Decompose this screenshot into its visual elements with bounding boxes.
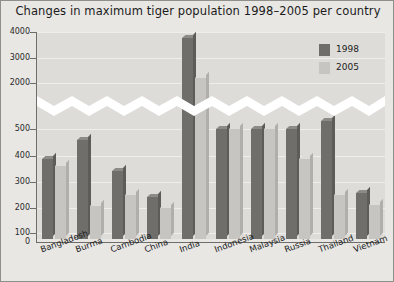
axis-break-symbol (37, 92, 385, 118)
bar-cambodia-1998 (112, 171, 123, 239)
y-tick-label-200: 200 (2, 203, 30, 212)
legend-label-2005: 2005 (336, 62, 359, 72)
gridline-4000 (37, 32, 385, 33)
bar-vietnam-2005 (369, 205, 380, 239)
y-tick-mark-500 (30, 129, 37, 130)
chart-legend: 1998 2005 (319, 42, 381, 78)
bar-cambodia-2005 (125, 195, 136, 239)
bar-burma-1998 (77, 140, 88, 239)
bar-vietnam-1998 (356, 193, 367, 239)
chart-title: Changes in maximum tiger population 1998… (1, 4, 394, 18)
bar-china-2005 (160, 208, 171, 239)
y-tick-mark-200 (30, 208, 37, 209)
y-tick-label-3000: 3000 (2, 53, 30, 62)
y-tick-300: 300 (1, 177, 30, 187)
bar-russia-2005 (299, 159, 310, 239)
legend-label-1998: 1998 (336, 44, 359, 54)
y-tick-mark-3000 (30, 58, 37, 59)
bar-malaysia-1998 (251, 129, 262, 239)
bar-india-2005 (195, 78, 206, 239)
legend-entry-1998: 1998 (319, 42, 381, 60)
bar-burma-2005 (90, 206, 101, 239)
y-tick-label-100: 100 (2, 228, 30, 237)
y-tick-label-300: 300 (2, 177, 30, 186)
y-tick-500: 500 (1, 124, 30, 134)
legend-swatch-icon-2005 (319, 62, 330, 74)
y-tick-2000: 2000 (1, 78, 30, 88)
y-tick-mark-100 (30, 233, 37, 234)
y-tick-mark-300 (30, 182, 37, 183)
y-tick-label-2000: 2000 (2, 78, 30, 87)
gridline-2000 (37, 83, 385, 84)
y-tick-mark-4000 (30, 32, 37, 33)
bar-bangladesh-1998 (42, 159, 53, 239)
chart-figure: Changes in maximum tiger population 1998… (0, 0, 394, 282)
bar-russia-1998 (286, 129, 297, 239)
y-tick-4000: 4000 (1, 27, 30, 37)
legend-entry-2005: 2005 (319, 60, 381, 78)
y-tick-label-500: 500 (2, 124, 30, 133)
bar-indonesia-1998 (216, 129, 227, 239)
y-tick-mark-2000 (30, 83, 37, 84)
y-tick-label-400: 400 (2, 151, 30, 160)
bar-thailand-2005 (334, 195, 345, 239)
y-tick-3000: 3000 (1, 53, 30, 63)
y-tick-400: 400 (1, 151, 30, 161)
x-axis-label-india: India (178, 238, 201, 255)
y-tick-mark-400 (30, 156, 37, 157)
bar-malaysia-2005 (264, 129, 275, 239)
y-tick-label-4000: 4000 (2, 27, 30, 36)
y-tick-label-0: 0 (9, 237, 30, 246)
bar-thailand-1998 (321, 121, 332, 239)
y-tick-200: 200 (1, 203, 30, 213)
bar-bangladesh-2005 (55, 166, 66, 239)
bar-indonesia-2005 (229, 129, 240, 239)
bar-india-1998 (182, 38, 193, 239)
legend-swatch-icon-1998 (319, 44, 330, 56)
